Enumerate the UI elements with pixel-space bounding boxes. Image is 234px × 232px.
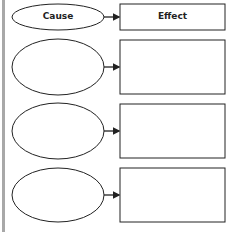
cause-effect-row-1 bbox=[12, 39, 225, 95]
cause-effect-row-2 bbox=[12, 103, 225, 159]
cause-ellipse-3[interactable] bbox=[12, 168, 104, 222]
effect-box-2[interactable] bbox=[120, 104, 225, 158]
effect-box-1[interactable] bbox=[120, 40, 225, 94]
cause-ellipse-2[interactable] bbox=[12, 103, 104, 159]
cause-ellipse-1[interactable] bbox=[12, 39, 104, 95]
cause-effect-diagram bbox=[0, 0, 234, 232]
effect-box-3[interactable] bbox=[120, 168, 225, 222]
cause-effect-row-3 bbox=[12, 168, 225, 222]
effect-header-label: Effect bbox=[120, 11, 225, 21]
cause-header-label: Cause bbox=[12, 11, 104, 21]
